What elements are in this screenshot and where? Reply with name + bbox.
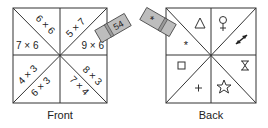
front-tab[interactable]: 54 [95,13,131,42]
puzzle-diagram: 6 × 6 7 × 6 5 × 7 9 × 6 4 × 3 6 × 3 8 × … [0,0,268,128]
plus-icon [195,85,202,92]
front-caption: Front [47,109,73,121]
back-square: * [166,8,256,103]
asterisk-icon: * [184,39,189,51]
front-top-right-upper: 5 × 7 [64,15,88,39]
star-icon [217,80,231,93]
triangle-icon [195,18,205,28]
double-arrow-icon [236,35,247,44]
back-tab[interactable]: * [140,7,176,36]
front-bottom-left-lower: 6 × 3 [29,74,53,98]
front-square: 6 × 6 7 × 6 5 × 7 9 × 6 4 × 3 6 × 3 8 × … [13,8,107,103]
back-caption: Back [199,109,224,121]
female-sign-icon [220,17,227,32]
hourglass-icon [241,61,249,70]
square-icon [178,62,185,69]
front-top-left-lower: 7 × 6 [16,40,39,51]
